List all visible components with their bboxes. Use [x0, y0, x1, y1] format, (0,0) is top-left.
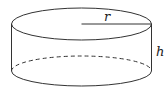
radius-label: r [104, 9, 111, 24]
cylinder-bottom-visible-edge [12, 71, 152, 86]
height-label: h [156, 44, 164, 59]
cylinder-diagram: r h [0, 0, 167, 93]
cylinder-bottom-hidden-edge [12, 56, 152, 71]
